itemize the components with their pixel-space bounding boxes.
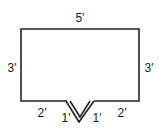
label-left: 3' (8, 61, 17, 75)
label-notch-left: 1' (62, 111, 71, 125)
label-right: 3' (145, 61, 154, 75)
label-notch-right: 1' (93, 111, 102, 125)
label-bottom-left: 2' (38, 106, 47, 120)
outer-walls (21, 29, 139, 101)
label-top: 5' (76, 11, 85, 25)
floor-plan-diagram: 5' 3' 3' 2' 2' 1' 1' (0, 0, 159, 131)
label-bottom-right: 2' (118, 106, 127, 120)
notch-inner (70, 101, 90, 117)
